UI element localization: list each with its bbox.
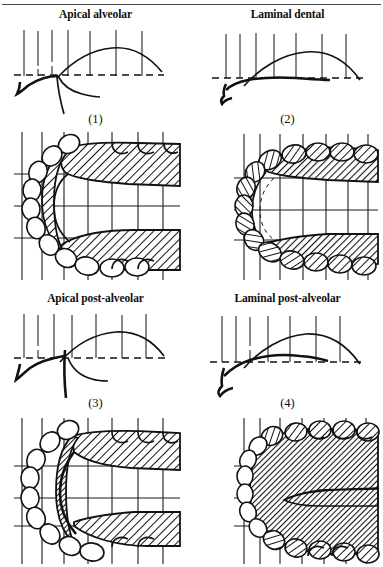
palatogram-apical-post-alveolar bbox=[8, 414, 186, 566]
tongue-contour bbox=[226, 77, 330, 90]
page-top-rule bbox=[2, 4, 381, 5]
tongue-blade-lower bbox=[58, 76, 100, 97]
panel-title: Apical alveolar bbox=[0, 8, 191, 21]
sagittal-diagram-laminal-dental bbox=[204, 22, 372, 114]
tooth bbox=[306, 143, 330, 161]
palatogram-laminal-post-alveolar bbox=[200, 414, 378, 566]
palate-outline bbox=[244, 334, 360, 368]
panel-number: (4) bbox=[192, 396, 383, 410]
tongue-contour bbox=[16, 356, 64, 380]
palate-outline bbox=[58, 48, 162, 77]
panel-title: Apical post-alveolar bbox=[0, 292, 191, 305]
tongue-contour bbox=[224, 355, 328, 376]
figure-root: Apical alveolar bbox=[0, 0, 383, 567]
sagittal-grid-ticks bbox=[24, 314, 146, 358]
tooth bbox=[328, 255, 352, 273]
tooth bbox=[125, 258, 149, 276]
tooth bbox=[354, 145, 378, 163]
panel-number: (3) bbox=[0, 396, 191, 410]
tooth bbox=[79, 541, 105, 562]
tooth bbox=[333, 543, 355, 561]
panel-laminal-dental: Laminal dental (2) bbox=[192, 6, 383, 289]
panel-number: (1) bbox=[0, 112, 191, 126]
palatogram-laminal-dental bbox=[200, 130, 378, 282]
panel-apical-post-alveolar: Apical post-alveolar bbox=[0, 290, 191, 567]
sagittal-diagram-apical-post-alveolar bbox=[12, 306, 180, 398]
sagittal-grid-ticks bbox=[226, 33, 346, 78]
tongue-blade-lower bbox=[68, 358, 108, 381]
tooth bbox=[20, 486, 39, 509]
tongue-contour bbox=[17, 76, 58, 94]
tooth bbox=[309, 541, 331, 559]
contact-region bbox=[56, 431, 180, 546]
tooth bbox=[237, 484, 254, 505]
tooth bbox=[21, 467, 40, 490]
tooth bbox=[237, 466, 254, 487]
panel-laminal-post-alveolar: Laminal post-alveolar (4) bbox=[192, 290, 383, 567]
panel-number: (2) bbox=[192, 112, 383, 126]
palate-outline bbox=[244, 52, 360, 86]
tooth bbox=[330, 143, 354, 161]
contact-lower-arm bbox=[74, 512, 180, 546]
tongue-root bbox=[64, 350, 66, 398]
contact-upper-arm bbox=[61, 143, 180, 186]
sagittal-grid-ticks bbox=[24, 30, 142, 76]
panel-title: Laminal dental bbox=[192, 8, 383, 21]
palatogram-apical-alveolar bbox=[8, 130, 186, 282]
tongue-tip-laminal bbox=[219, 368, 233, 396]
sagittal-diagram-apical-alveolar bbox=[12, 22, 180, 114]
sagittal-diagram-laminal-post-alveolar bbox=[204, 306, 372, 398]
tooth bbox=[352, 257, 376, 275]
tooth bbox=[304, 253, 328, 271]
tooth bbox=[357, 545, 379, 563]
panel-title: Laminal post-alveolar bbox=[192, 292, 383, 305]
arch-inner-dashed bbox=[260, 178, 274, 240]
panel-apical-alveolar: Apical alveolar bbox=[0, 6, 191, 289]
